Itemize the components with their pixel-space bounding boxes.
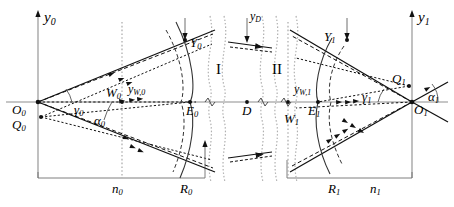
point-label-O1: O1 <box>414 103 428 118</box>
label-yW0: yW,0 <box>128 83 145 97</box>
dimension-label-n0: n0 <box>112 182 123 197</box>
y1-axis-label: y1 <box>418 10 430 27</box>
diagram-vector-layer <box>0 0 454 207</box>
point-label-Y1: Y1 <box>324 30 336 45</box>
angle-label-gamma1: γ1 <box>362 90 371 105</box>
dimension-label-n1: n1 <box>370 182 381 197</box>
point-label-Q1: Q1 <box>392 72 406 87</box>
point-markers <box>36 38 415 119</box>
point-label-O0: O0 <box>12 103 26 118</box>
y0-axis <box>35 10 40 178</box>
point-label-E1: E1 <box>308 104 320 119</box>
y0-axis-label: y0 <box>44 10 56 27</box>
y1-axis <box>409 10 414 178</box>
point-label-Q0: Q0 <box>12 118 26 133</box>
angle-label-gamma0: γ0 <box>74 103 83 118</box>
right-wavefront-arcs <box>316 38 344 174</box>
region-label-II: II <box>272 62 282 77</box>
dimension-baseline <box>38 160 412 178</box>
point-label-Y0: Y0 <box>190 36 202 51</box>
label-yD: yD <box>250 10 261 24</box>
angle-label-alpha0: α0 <box>94 114 105 129</box>
region-label-I: I <box>216 62 221 77</box>
angle-label-alpha1: α1 <box>428 90 439 105</box>
dimension-label-R0: R0 <box>180 182 192 197</box>
left-dashed-rays <box>38 34 213 168</box>
point-label-W1: W1 <box>284 112 299 127</box>
point-label-E0: E0 <box>186 104 198 119</box>
point-label-W0: W0 <box>106 86 121 101</box>
diagram-canvas: y0 y1 O0 Q0 O1 Q1 Y0 Y1 W0 yW,0 W1 yW,1 … <box>0 0 454 207</box>
right-dashed-rays <box>292 36 412 166</box>
label-yW1: yW,1 <box>294 83 311 97</box>
point-label-D: D <box>242 104 251 117</box>
dimension-label-R1: R1 <box>328 182 340 197</box>
baseline-ticks <box>38 172 412 178</box>
